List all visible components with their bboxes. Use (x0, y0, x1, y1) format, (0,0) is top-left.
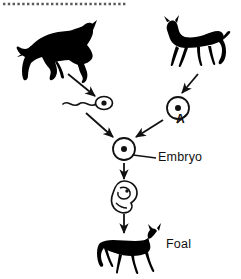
arrow-sperm-to-zygote (86, 113, 113, 137)
label-embryo: Embryo (158, 151, 202, 164)
label-foal: Foal (166, 238, 191, 251)
curled-fetus (112, 181, 137, 213)
sperm-cell (63, 97, 113, 110)
arrow-mare-to-egg (182, 74, 198, 93)
zygote-embryo-cell (113, 138, 135, 160)
diagram-canvas: Embryo Foal A (0, 0, 241, 279)
arrow-stallion-to-sperm (68, 74, 95, 96)
parent-horse-left (17, 20, 97, 83)
foal-silhouette (97, 223, 161, 274)
leader-line-embryo (133, 155, 156, 158)
diagram-graphics (0, 0, 241, 279)
label-cell-a: A (176, 113, 185, 125)
arrow-egg-to-zygote (136, 120, 163, 137)
parent-horse-right (164, 15, 230, 67)
